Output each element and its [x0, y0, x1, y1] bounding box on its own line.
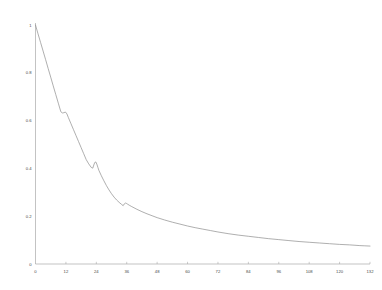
line-chart: 00.20.40.60.81 0122436486072849610812013… [0, 0, 382, 290]
y-tick-label: 0 [29, 262, 32, 267]
chart-container: 00.20.40.60.81 0122436486072849610812013… [0, 0, 382, 290]
y-tick-label: 1 [29, 23, 32, 28]
x-axis-tick-labels: 01224364860728496108120132 [34, 269, 374, 274]
x-tick-label: 48 [155, 269, 160, 274]
x-tick-label: 36 [124, 269, 129, 274]
x-axis-tick-marks [66, 262, 370, 264]
x-tick-label: 72 [216, 269, 221, 274]
x-tick-label: 96 [276, 269, 281, 274]
y-tick-label: 0.4 [26, 166, 32, 171]
x-tick-label: 24 [94, 269, 99, 274]
data-series-decay [36, 25, 371, 246]
x-tick-label: 0 [34, 269, 37, 274]
x-tick-label: 108 [306, 269, 314, 274]
x-tick-label: 84 [246, 269, 251, 274]
y-tick-label: 0.6 [26, 118, 32, 123]
x-tick-label: 132 [367, 269, 375, 274]
y-tick-label: 0.2 [26, 214, 32, 219]
y-axis-tick-labels: 00.20.40.60.81 [26, 23, 32, 267]
x-tick-label: 12 [64, 269, 69, 274]
y-tick-label: 0.8 [26, 70, 32, 75]
x-tick-label: 120 [336, 269, 344, 274]
x-tick-label: 60 [185, 269, 190, 274]
